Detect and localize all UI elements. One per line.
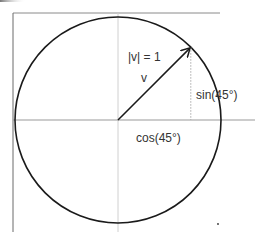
vector-label: v bbox=[141, 71, 147, 85]
sin-label: sin(45°) bbox=[196, 88, 237, 102]
cos-label: cos(45°) bbox=[136, 131, 181, 145]
stray-dot bbox=[217, 223, 219, 225]
corner-shadow bbox=[0, 0, 26, 2]
unit-circle-diagram: |v| = 1 v sin(45°) cos(45°) bbox=[0, 0, 265, 235]
magnitude-label: |v| = 1 bbox=[128, 50, 161, 64]
